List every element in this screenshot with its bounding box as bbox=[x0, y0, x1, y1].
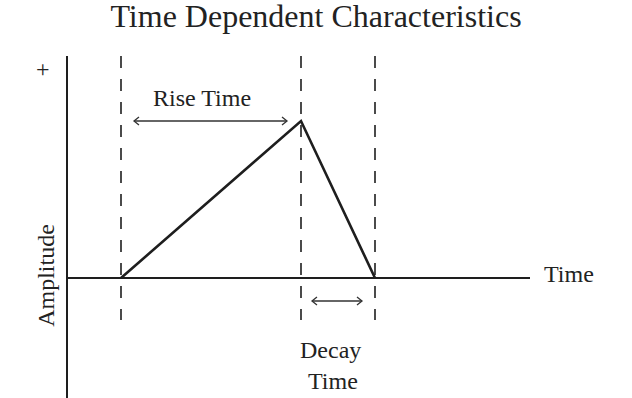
y-positive-marker: + bbox=[36, 56, 50, 83]
rise-time-label: Rise Time bbox=[153, 85, 251, 112]
decay-time-label-line1: Decay bbox=[300, 337, 361, 364]
decay-time-arrow bbox=[312, 297, 362, 305]
y-axis-label: Amplitude bbox=[33, 206, 60, 346]
pulse-waveform bbox=[121, 121, 375, 278]
rise-time-arrow bbox=[134, 117, 287, 125]
x-axis-label: Time bbox=[544, 261, 594, 288]
diagram-title: Time Dependent Characteristics bbox=[0, 0, 632, 35]
decay-time-label-line2: Time bbox=[308, 368, 358, 395]
